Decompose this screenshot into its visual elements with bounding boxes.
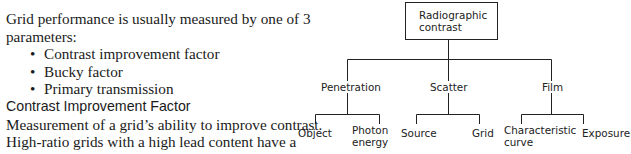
node-grid: Grid: [472, 127, 494, 139]
node-exposure: Exposure: [582, 127, 630, 139]
node-characteristic-curve-line2: curve: [504, 136, 533, 148]
node-penetration: Penetration: [321, 81, 381, 93]
root-label-line1: Radiographic: [419, 9, 487, 21]
node-film: Film: [542, 81, 563, 93]
root-label-line2: contrast: [419, 21, 462, 33]
node-source: Source: [401, 127, 437, 139]
node-photon-energy-line2: energy: [352, 136, 388, 148]
node-photon-energy-line1: Photon: [352, 124, 388, 136]
contrast-tree-diagram: Radiographic contrast Penetration Scatte…: [0, 0, 631, 154]
node-characteristic-curve-line1: Characteristic: [504, 124, 576, 136]
node-object: Object: [298, 127, 332, 139]
node-scatter: Scatter: [430, 81, 468, 93]
